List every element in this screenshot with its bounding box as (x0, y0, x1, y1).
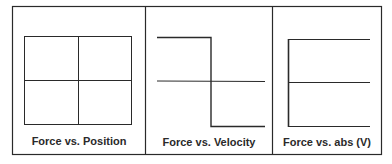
plot-force-vs-position (25, 37, 132, 125)
force-diagram-figure: Force vs. Position Force vs. Velocity Fo… (0, 0, 392, 164)
caption-force-vs-velocity: Force vs. Velocity (146, 136, 272, 148)
plot-force-vs-abs-v (289, 39, 371, 127)
plot-force-vs-velocity (157, 38, 265, 127)
step-curve (157, 38, 265, 127)
caption-force-vs-abs-v: Force vs. abs (V) (273, 136, 381, 148)
caption-force-vs-position: Force vs. Position (13, 135, 145, 147)
